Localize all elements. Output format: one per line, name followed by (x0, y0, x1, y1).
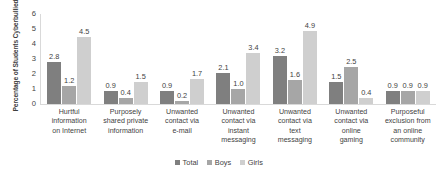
bar-value-label: 3.4 (248, 44, 258, 51)
bar-girls[interactable] (303, 31, 317, 105)
bar-wrapper: 0.9 (416, 14, 430, 104)
category-label: Unwantedcontact viae-mail (154, 108, 210, 145)
category-label-line: shared private (98, 117, 152, 126)
category-label: Hurtfulinformationon Internet (41, 108, 97, 145)
legend-swatch-icon (175, 160, 180, 165)
bar-wrapper: 1.0 (231, 14, 245, 104)
bar-value-label: 2.5 (346, 58, 356, 65)
bar-girls[interactable] (246, 53, 260, 104)
bar-wrapper: 0.2 (175, 14, 189, 104)
bar-total[interactable] (273, 56, 287, 104)
bar-wrapper: 3.2 (273, 14, 287, 104)
category-label-line: messaging (268, 136, 322, 145)
category-label-line: contact via (211, 117, 265, 126)
category-label: Purposefulexclusion froman onlinecommuni… (380, 108, 436, 145)
bar-value-label: 1.5 (331, 73, 341, 80)
category-label: Unwantedcontact viatextmessaging (267, 108, 323, 145)
y-tick-label: 4 (6, 40, 36, 48)
bar-value-label: 0.2 (177, 92, 187, 99)
bar-total[interactable] (47, 62, 61, 104)
category-label-line: information (98, 127, 152, 136)
bar-boys[interactable] (231, 89, 245, 104)
bar-wrapper: 3.4 (246, 14, 260, 104)
bar-girls[interactable] (359, 98, 373, 104)
category-label-line: e-mail (155, 127, 209, 136)
legend-label: Girls (248, 159, 263, 166)
category-label-line: Purposeful (381, 108, 435, 117)
category-label-line: Hurtful (42, 108, 96, 117)
bar-wrapper: 0.9 (160, 14, 174, 104)
bar-wrapper: 4.5 (77, 14, 91, 104)
bar-wrapper: 0.4 (359, 14, 373, 104)
bar-girls[interactable] (77, 37, 91, 105)
legend-swatch-icon (240, 160, 245, 165)
category-label-line: Unwanted (211, 108, 265, 117)
legend-label: Total (183, 159, 199, 166)
bar-value-label: 0.9 (388, 82, 398, 89)
bar-value-label: 2.8 (49, 53, 59, 60)
legend-item-total[interactable]: Total (175, 159, 198, 166)
bar-value-label: 0.9 (162, 82, 172, 89)
bar-group: 0.90.21.7 (154, 14, 210, 104)
bar-group: 2.81.24.5 (41, 14, 97, 104)
category-label: Unwantedcontact viaonlinegaming (323, 108, 379, 145)
bar-wrapper: 0.9 (104, 14, 118, 104)
bar-girls[interactable] (416, 91, 430, 105)
legend-label: Boys (215, 159, 231, 166)
bar-group: 3.21.64.9 (267, 14, 323, 104)
bar-value-label: 0.4 (120, 89, 130, 96)
bar-wrapper: 1.5 (329, 14, 343, 104)
category-label-line: gaming (324, 136, 378, 145)
category-label-line: community (381, 136, 435, 145)
legend-item-boys[interactable]: Boys (207, 159, 231, 166)
bar-boys[interactable] (62, 86, 76, 104)
bar-boys[interactable] (401, 91, 415, 105)
category-label-line: information (42, 117, 96, 126)
legend-swatch-icon (207, 160, 212, 165)
bar-group: 0.90.41.5 (97, 14, 153, 104)
bar-wrapper: 4.9 (303, 14, 317, 104)
category-label-line: Unwanted (155, 108, 209, 117)
bar-value-label: 1.7 (192, 70, 202, 77)
category-label-line: instant (211, 127, 265, 136)
bar-total[interactable] (329, 82, 343, 105)
bar-total[interactable] (216, 73, 230, 105)
bar-wrapper: 0.9 (401, 14, 415, 104)
cyberbullying-bar-chart: Percentage of Students Cyberbullied 6543… (0, 0, 438, 177)
category-label-line: Unwanted (324, 108, 378, 117)
bar-value-label: 4.9 (305, 22, 315, 29)
bar-girls[interactable] (134, 82, 148, 105)
bar-total[interactable] (386, 91, 400, 105)
bar-wrapper: 2.8 (47, 14, 61, 104)
bar-boys[interactable] (119, 98, 133, 104)
x-axis-baseline (40, 104, 436, 105)
category-label-line: Unwanted (268, 108, 322, 117)
bar-value-label: 0.4 (361, 89, 371, 96)
category-label-line: contact via (155, 117, 209, 126)
y-tick-label: 2 (6, 70, 36, 78)
category-label-line: messaging (211, 136, 265, 145)
category-label-line: text (268, 127, 322, 136)
category-label: Purposelyshared privateinformation (97, 108, 153, 145)
y-tick-label: 1 (6, 85, 36, 93)
bar-total[interactable] (160, 91, 174, 105)
bar-boys[interactable] (344, 67, 358, 105)
bar-group: 0.90.90.9 (380, 14, 436, 104)
bar-value-label: 0.9 (403, 82, 413, 89)
category-label-line: Purposely (98, 108, 152, 117)
category-label: Unwantedcontact viainstantmessaging (210, 108, 266, 145)
bar-wrapper: 1.6 (288, 14, 302, 104)
bar-group: 1.52.50.4 (323, 14, 379, 104)
bar-boys[interactable] (288, 80, 302, 104)
bar-value-label: 1.0 (233, 80, 243, 87)
category-labels: Hurtfulinformationon InternetPurposelysh… (41, 108, 436, 145)
bar-wrapper: 1.5 (134, 14, 148, 104)
category-label-line: an online (381, 127, 435, 136)
bar-value-label: 1.5 (135, 73, 145, 80)
bar-total[interactable] (104, 91, 118, 105)
bar-wrapper: 0.4 (119, 14, 133, 104)
bar-wrapper: 2.5 (344, 14, 358, 104)
legend-item-girls[interactable]: Girls (240, 159, 263, 166)
bar-boys[interactable] (175, 101, 189, 104)
bar-girls[interactable] (190, 79, 204, 105)
